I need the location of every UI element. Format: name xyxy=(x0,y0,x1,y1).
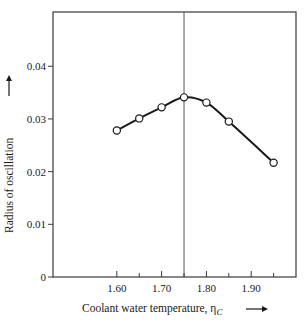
data-point-marker xyxy=(158,104,165,111)
x-tick-label: 1.70 xyxy=(152,282,172,294)
x-axis-arrow-icon xyxy=(246,306,268,312)
y-axis-title-text: Radius of oscillation xyxy=(3,138,15,233)
y-tick-label: 0.01 xyxy=(27,218,46,230)
data-point-marker xyxy=(270,159,277,166)
x-arrow-head xyxy=(262,306,268,312)
axis-ticks: 1.601.701.801.9000.010.020.030.04 xyxy=(27,60,274,294)
x-tick-label: 1.80 xyxy=(197,282,217,294)
plot-frame xyxy=(53,12,296,277)
data-point-marker xyxy=(225,118,232,125)
x-axis-title: Coolant water temperature, ηC xyxy=(82,302,223,317)
data-point-marker xyxy=(136,115,143,122)
y-arrow-head xyxy=(6,75,12,81)
y-tick-label: 0 xyxy=(41,271,47,283)
x-tick-label: 1.90 xyxy=(242,282,262,294)
data-point-marker xyxy=(203,99,210,106)
y-tick-label: 0.04 xyxy=(27,60,47,72)
chart-canvas: 1.601.701.801.9000.010.020.030.04 Coolan… xyxy=(0,0,307,328)
plot-border xyxy=(53,12,296,277)
chart: 1.601.701.801.9000.010.020.030.04 Coolan… xyxy=(0,0,307,328)
data-point-marker xyxy=(113,127,120,134)
x-tick-label: 1.60 xyxy=(107,282,127,294)
x-axis-title-subscript: C xyxy=(216,307,223,317)
x-axis-title-text: Coolant water temperature, η xyxy=(82,302,216,315)
data-point-marker xyxy=(180,94,187,101)
y-tick-label: 0.03 xyxy=(27,113,47,125)
series-line xyxy=(117,97,274,162)
y-tick-label: 0.02 xyxy=(27,166,46,178)
y-axis-title: Radius of oscillation xyxy=(3,138,15,233)
y-axis-arrow-icon xyxy=(6,75,12,96)
data-series xyxy=(113,94,277,167)
